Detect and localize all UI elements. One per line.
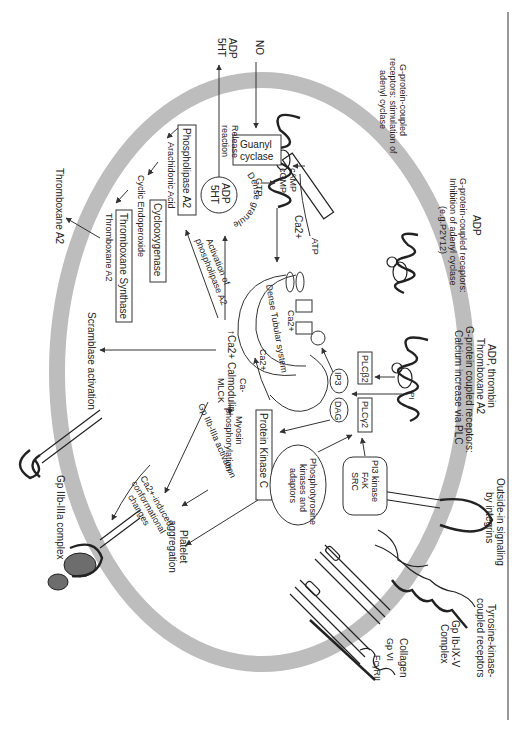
ip3-label: IP3 bbox=[333, 372, 343, 386]
pi3k-label: PI3 kinase bbox=[370, 460, 380, 502]
atp-label: ATP bbox=[310, 238, 320, 255]
gpcr-stim-receptor-icon bbox=[269, 115, 334, 219]
gp-iib-complex-label: Gp IIb-IIIa complex bbox=[55, 475, 66, 559]
endoperoxide-label: Cyclic Endoperoxide bbox=[136, 175, 146, 257]
thromboxane-out-label: Thromboxane A2 bbox=[54, 168, 65, 245]
adp-thrombin-label-3: G-protein coupled receptors: bbox=[464, 326, 475, 453]
myosin-to-agg-arrow bbox=[182, 490, 208, 506]
granule-adp-label: ADP bbox=[220, 183, 231, 204]
adp-out-label: ADP bbox=[227, 38, 238, 59]
collagen-label: Collagen bbox=[398, 638, 409, 677]
adp-thrombin-label-4: Calcium increase via PLC bbox=[453, 330, 464, 445]
tyrosine-label-1: Tyrosine-kinase- bbox=[486, 604, 497, 677]
platelet-signaling-diagram: NO ADP 5HT Thromboxane A2 G-protein-coup… bbox=[0, 0, 531, 755]
phosphotyrosine-label-2: kinases and bbox=[298, 464, 308, 512]
gpcr-stim-label-1: G-protein-coupled bbox=[398, 64, 408, 136]
fc-label: FcγRII bbox=[372, 655, 382, 681]
phosphotyrosine-label-1: Phosphotyrosine bbox=[308, 458, 318, 525]
arachidonic-label: Arachidonic Acid bbox=[166, 142, 176, 209]
ca-inner-label: Ca2+ bbox=[286, 310, 296, 332]
fak-label: FAK bbox=[360, 472, 370, 489]
gpcr-inhib-label-3: (e.g.P2Y12) bbox=[438, 206, 448, 254]
gpcr-plc-receptor-icon bbox=[392, 338, 428, 421]
gp-ib-label-2: Complex bbox=[439, 624, 450, 663]
adp-label: ADP bbox=[471, 215, 482, 236]
scramblase-label: Scramblase activation bbox=[86, 312, 97, 410]
platelet-label: Platelet bbox=[178, 530, 189, 564]
ca-dash-label: Ca- bbox=[238, 378, 248, 393]
phosphotyrosine-to-plcg2-arrow bbox=[318, 435, 352, 452]
gpcr-inhib-label-2: Inhibition of adenyl cyclase bbox=[448, 178, 458, 286]
ca-top-label: Ca2+ bbox=[293, 215, 304, 239]
release-label-1: Release bbox=[230, 125, 240, 158]
pla2-to-aa-arrow bbox=[167, 128, 178, 138]
plcg2-label: PLCγ2 bbox=[360, 401, 370, 428]
gp-vi-label: Gp VI bbox=[385, 638, 395, 661]
aa-to-endoperoxide-arrow bbox=[148, 162, 158, 175]
aggregation-label: aggregation bbox=[167, 520, 178, 573]
mlck-label: MLCK bbox=[216, 378, 226, 403]
dag-to-pkc-arrow bbox=[280, 420, 330, 432]
adp-thrombin-label-2: Thromboxane A2 bbox=[475, 338, 486, 415]
granule-5ht-label: 5HT bbox=[209, 185, 220, 204]
gpcr-stim-label-3: adenyl cyclase bbox=[378, 70, 388, 129]
5ht-out-label: 5HT bbox=[216, 38, 227, 57]
no-label: NO bbox=[254, 40, 265, 55]
dag-label: DAG bbox=[333, 401, 343, 421]
cyclase-label: cyclase bbox=[240, 151, 274, 162]
ca-calmodulin-label: ↑Ca2+ Calmodulin bbox=[226, 330, 237, 412]
cyclooxygenase-label: Cyclooxygenase bbox=[152, 203, 163, 277]
gp-ib-label-1: Gp Ib-IX-V bbox=[450, 620, 461, 668]
phospholipase-label: Phospholipase A2 bbox=[181, 128, 192, 209]
gpcr-stim-label-2: receptors: stimulation of bbox=[388, 58, 398, 154]
tyrosine-label-2: coupled receptors bbox=[475, 598, 486, 678]
platelet-membrane bbox=[57, 80, 467, 664]
pi3k-to-plcg2-arrow bbox=[362, 438, 365, 456]
plcb2-label: PLCβ2 bbox=[360, 355, 370, 383]
phosphotyrosine-label-3: adaptors bbox=[288, 468, 298, 504]
release-label-2: reaction bbox=[220, 125, 230, 157]
guanyl-label: Guanyl bbox=[240, 139, 272, 150]
src-label: SRC bbox=[350, 472, 360, 492]
ca-release-label: Ca2+ bbox=[258, 349, 268, 371]
endoperoxide-to-txa2-arrow bbox=[116, 190, 128, 203]
pkc-label: Protein Kinase C bbox=[258, 413, 269, 488]
gpcr-inhib-receptor-icon bbox=[387, 234, 418, 293]
gpcr-inhib-label-1: G-protein-coupled receptors: bbox=[458, 178, 468, 293]
pkc-to-agg-arrow bbox=[186, 500, 258, 545]
myosin-label-1: Myosin bbox=[234, 416, 244, 445]
tx-a2-label: Thromboxane A2 bbox=[104, 213, 114, 282]
camp-label: cAMP bbox=[288, 168, 298, 192]
outside-in-label-1: Outside-in signaling bbox=[495, 478, 506, 566]
pi-label: PI bbox=[407, 392, 416, 400]
adp-thrombin-label-1: ADP, thrombin bbox=[486, 344, 497, 408]
cgmp-label: cGMP bbox=[278, 168, 288, 193]
outside-in-label-2: by integrins bbox=[484, 492, 495, 543]
tx-synthase-label: Thromboxane Synthase bbox=[118, 213, 129, 320]
